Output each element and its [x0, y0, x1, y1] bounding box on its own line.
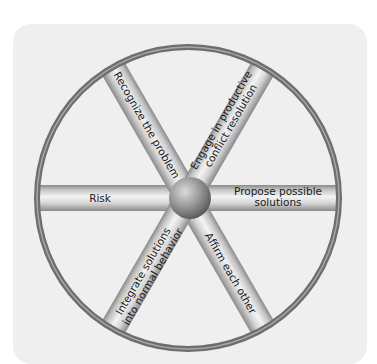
svg-text:solutions: solutions	[254, 196, 301, 208]
spoke-label-affirm: Affirm each other	[203, 230, 260, 316]
svg-text:Recognize the problem: Recognize the problem	[112, 70, 183, 181]
svg-text:Risk: Risk	[89, 192, 112, 204]
spoke-label-risk: Risk	[89, 192, 112, 204]
svg-text:Affirm each other: Affirm each other	[203, 230, 260, 316]
spoke-label-engage: Engage in productive conflict resolution	[188, 69, 264, 177]
wheel-hub	[169, 177, 211, 219]
spoke-label-integrate: Integrate solutions into normal behavior	[110, 220, 185, 327]
spoke-label-recognize: Recognize the problem	[112, 70, 183, 181]
